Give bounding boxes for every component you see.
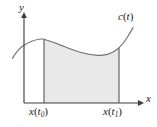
x-axis-arrowhead-icon [138, 100, 144, 106]
tick-label-xt1: x(t1) [103, 106, 122, 117]
xt0-subscript: 0 [41, 111, 45, 119]
tick-label-xt0: x(t0) [29, 106, 48, 117]
shaded-region-under-curve [44, 39, 119, 103]
xt1-close-paren: ) [118, 105, 122, 117]
xt0-close-paren: ) [44, 105, 48, 117]
x-axis-label: x [146, 93, 151, 104]
xt1-subscript: 1 [115, 111, 119, 119]
figure-vector-graphic [0, 0, 157, 127]
curve-label-ct: c(t) [118, 11, 133, 22]
y-axis-label: y [19, 2, 24, 13]
math-figure-canvas: y x c(t) x(t0) x(t1) [0, 0, 157, 127]
curve-label-close-paren: ) [130, 10, 134, 22]
